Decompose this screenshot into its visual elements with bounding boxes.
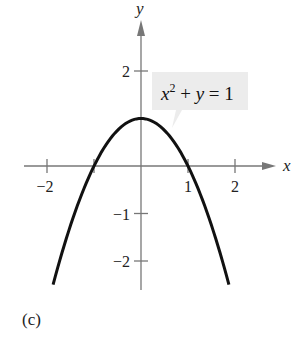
x-axis-arrow-icon (262, 162, 276, 170)
x-tick-label: 2 (231, 178, 239, 195)
equation-callout: x2 + y = 1 (152, 72, 248, 128)
y-axis-label: y (134, 0, 144, 18)
y-axis-arrow-icon (137, 20, 145, 36)
panel-label: (c) (22, 310, 41, 329)
graph-figure: x2 + y = 1 x y −2122−1−2 (c) (0, 0, 308, 344)
x-axis-label: x (282, 156, 291, 175)
x-tick-label: 1 (184, 178, 192, 195)
y-tick-label: 2 (122, 63, 130, 80)
y-tick-label: −1 (113, 206, 130, 223)
x-tick-label: −2 (36, 178, 53, 195)
y-tick-label: −2 (113, 253, 130, 270)
